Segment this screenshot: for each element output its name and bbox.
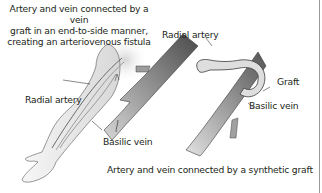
label-graft: Graft (277, 76, 299, 87)
label-basilic-vein-left: Basilic vein (103, 136, 152, 147)
left-caption-line-3: creating an arteriovenous fistula (4, 36, 154, 47)
arm-illustration (22, 44, 124, 182)
label-radial-artery-right: Radial artery (162, 29, 219, 40)
figure: Artery and vein connected by a vein graf… (0, 0, 322, 193)
label-basilic-vein-right: Basilic vein (249, 100, 298, 111)
left-caption-line-2: graft in an end-to-side manner, (4, 25, 154, 36)
left-panel-caption: Artery and vein connected by a vein graf… (4, 3, 154, 47)
left-caption-line-1: Artery and vein connected by a vein (4, 3, 154, 25)
right-panel-caption: Artery and vein connected by a synthetic… (107, 164, 313, 175)
label-radial-artery-left: Radial artery (25, 94, 82, 105)
panel-border (319, 0, 320, 193)
